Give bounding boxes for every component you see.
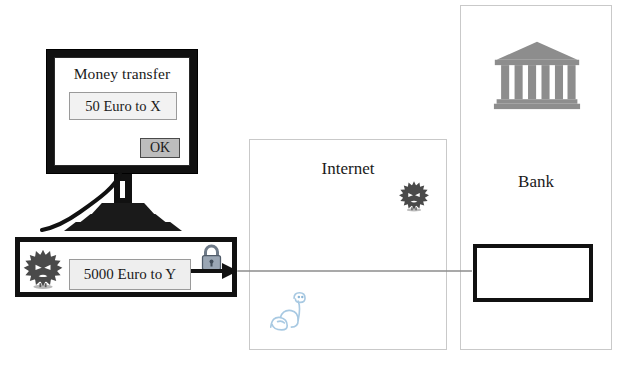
worm-icon — [268, 290, 316, 334]
manipulated-amount-field: 5000 Euro to Y — [69, 259, 191, 290]
monitor-icon: Money transfer 50 Euro to X OK — [46, 49, 198, 174]
diagram-canvas: Money transfer 50 Euro to X OK 5000 Euro… — [0, 0, 628, 374]
ok-button[interactable]: OK — [140, 138, 180, 158]
padlock-icon — [199, 243, 224, 273]
bank-building-icon — [492, 40, 582, 110]
virus-icon — [397, 180, 431, 214]
bank-inner-box — [473, 244, 593, 302]
bank-label: Bank — [461, 172, 611, 192]
dialog-title: Money transfer — [55, 65, 189, 83]
virus-icon — [21, 248, 65, 292]
internet-label: Internet — [250, 159, 446, 179]
monitor-screen: Money transfer 50 Euro to X OK — [54, 57, 190, 166]
displayed-amount-field: 50 Euro to X — [69, 92, 177, 120]
monitor-cable-icon — [40, 172, 124, 234]
